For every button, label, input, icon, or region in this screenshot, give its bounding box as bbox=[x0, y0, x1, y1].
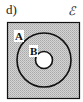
set-b-label: B bbox=[29, 45, 38, 57]
set-a-label: A bbox=[14, 30, 24, 42]
venn-diagram bbox=[0, 0, 83, 102]
